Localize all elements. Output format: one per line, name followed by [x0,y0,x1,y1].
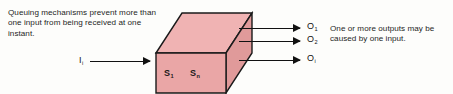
state-last-subscript: n [197,73,201,79]
right-caption-text: One or more outputs may be caused by one… [330,24,450,45]
state-label-first: S1 [164,68,174,78]
state-first-subscript: 1 [171,73,174,79]
output-3-subscript: i [314,58,315,64]
output-signal-label-3: Oi [307,53,315,63]
input-label-subscript: i [82,60,83,66]
output-1-subscript: 1 [314,26,317,32]
output-arrow-head-icon-1 [293,24,301,32]
state-first-base: S [164,68,170,78]
output-arrow-head-icon-2 [293,37,301,45]
output-2-subscript: 2 [314,39,317,45]
output-arrow-shaft-1 [239,28,300,29]
output-signal-label-2: O2 [307,34,317,44]
state-label-last: Sn [190,68,200,78]
output-arrow-shaft-3 [239,60,300,61]
input-arrow-head-icon [143,57,151,65]
input-signal-label: Ii [79,55,83,65]
system-box: S1 Sn [152,11,252,93]
input-arrow-shaft [90,61,150,62]
output-arrow-shaft-2 [239,41,300,42]
system-block-diagram-figure: Queuing mechanisms prevent more than one… [0,0,453,94]
left-caption-text: Queuing mechanisms prevent more than one… [8,8,158,39]
state-last-base: S [190,68,196,78]
output-signal-label-1: O1 [307,21,317,31]
system-box-shape [152,11,252,93]
output-arrow-head-icon-3 [293,56,301,64]
